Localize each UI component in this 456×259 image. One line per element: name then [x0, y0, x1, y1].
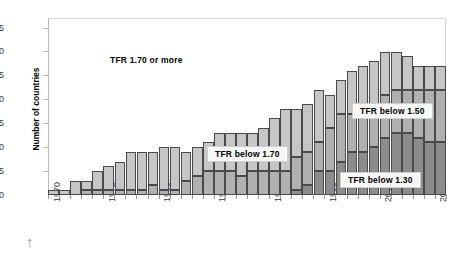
bar-segment-tfr-170-or-more [137, 152, 148, 190]
bar-segment-tfr-below-130 [302, 185, 313, 195]
bar-column [115, 18, 126, 195]
bar-segment-tfr-below-130 [325, 171, 336, 195]
bar-segment-tfr-below-130 [314, 171, 325, 195]
bar-segment-tfr-below-170 [236, 176, 247, 195]
bar-segment-tfr-below-170 [170, 190, 181, 195]
bar-segment-tfr-170-or-more [302, 104, 313, 152]
annotation-tfr-below-170: TFR below 1.70 [207, 146, 288, 162]
bar-column [81, 18, 92, 195]
bar-segment-tfr-170-or-more [424, 66, 435, 90]
bar-column [435, 18, 446, 195]
bars-layer [0, 0, 456, 259]
bar-segment-tfr-below-130 [424, 142, 435, 195]
bar-segment-tfr-170-or-more [380, 52, 391, 95]
bar-segment-tfr-below-170 [192, 176, 203, 195]
bar-column [103, 18, 114, 195]
bar-segment-tfr-170-or-more [291, 109, 302, 157]
bar-segment-tfr-170-or-more [103, 166, 114, 190]
up-arrow-icon[interactable]: ↑ [26, 234, 34, 249]
bar-column [214, 18, 225, 195]
bar-column [269, 18, 280, 195]
bar-segment-tfr-170-or-more [358, 66, 369, 104]
bar-column [336, 18, 347, 195]
bar-segment-tfr-below-170 [181, 181, 192, 195]
bar-column [314, 18, 325, 195]
annotation-tfr-170-or-more: TFR 1.70 or more [110, 55, 183, 65]
bar-column [258, 18, 269, 195]
bar-segment-tfr-170-or-more [269, 118, 280, 171]
bar-segment-tfr-below-170 [347, 114, 358, 152]
bar-column [70, 18, 81, 195]
bar-segment-tfr-below-170 [225, 171, 236, 195]
bar-segment-tfr-170-or-more [115, 162, 126, 191]
bar-column [325, 18, 336, 195]
bar-segment-tfr-170-or-more [170, 147, 181, 190]
annotation-tfr-below-150: TFR below 1.50 [352, 103, 433, 119]
chart-container: Number of countries 05101520253035 19701… [0, 0, 456, 259]
bar-column [225, 18, 236, 195]
bar-column [148, 18, 159, 195]
bar-segment-tfr-170-or-more [336, 80, 347, 113]
bar-segment-tfr-below-130 [435, 142, 446, 195]
bar-column [48, 18, 59, 195]
bar-segment-tfr-170-or-more [70, 181, 81, 195]
bar-column [159, 18, 170, 195]
bar-segment-tfr-below-170 [103, 190, 114, 195]
bar-segment-tfr-170-or-more [314, 90, 325, 143]
bar-segment-tfr-170-or-more [413, 66, 424, 90]
bar-segment-tfr-170-or-more [402, 56, 413, 89]
bar-segment-tfr-below-170 [137, 190, 148, 195]
bar-segment-tfr-170-or-more [148, 152, 159, 185]
bar-segment-tfr-170-or-more [325, 95, 336, 128]
bar-column [137, 18, 148, 195]
bar-segment-tfr-170-or-more [192, 147, 203, 176]
bar-segment-tfr-170-or-more [181, 152, 192, 181]
bar-segment-tfr-below-170 [203, 171, 214, 195]
bar-segment-tfr-below-170 [291, 157, 302, 190]
bar-segment-tfr-below-170 [336, 114, 347, 162]
bar-segment-tfr-below-170 [148, 185, 159, 195]
bar-segment-tfr-170-or-more [126, 152, 137, 190]
bar-segment-tfr-below-170 [92, 190, 103, 195]
bar-column [247, 18, 258, 195]
bar-segment-tfr-below-170 [325, 128, 336, 171]
bar-segment-tfr-below-170 [214, 171, 225, 195]
bar-column [291, 18, 302, 195]
bar-segment-tfr-below-170 [302, 152, 313, 185]
bar-segment-tfr-below-170 [314, 142, 325, 171]
bar-segment-tfr-below-170 [115, 190, 126, 195]
bar-column [192, 18, 203, 195]
bar-segment-tfr-below-170 [269, 171, 280, 195]
bar-segment-tfr-below-170 [159, 190, 170, 195]
bar-segment-tfr-below-170 [435, 90, 446, 143]
bar-segment-tfr-below-170 [81, 190, 92, 195]
bar-segment-tfr-170-or-more [435, 66, 446, 90]
bar-column [126, 18, 137, 195]
bar-segment-tfr-170-or-more [81, 181, 92, 191]
bar-segment-tfr-170-or-more [48, 190, 59, 195]
bar-segment-tfr-below-170 [280, 171, 291, 195]
bar-column [280, 18, 291, 195]
bar-segment-tfr-below-170 [258, 171, 269, 195]
bar-segment-tfr-170-or-more [391, 52, 402, 90]
bar-segment-tfr-below-130 [291, 190, 302, 195]
bar-segment-tfr-170-or-more [159, 147, 170, 190]
annotation-tfr-below-130: TFR below 1.30 [340, 172, 421, 188]
bar-column [59, 18, 70, 195]
bar-segment-tfr-170-or-more [59, 190, 70, 195]
bar-segment-tfr-below-170 [126, 190, 137, 195]
bar-column [236, 18, 247, 195]
bar-column [170, 18, 181, 195]
bar-column [203, 18, 214, 195]
bar-segment-tfr-170-or-more [369, 61, 380, 104]
bar-segment-tfr-170-or-more [92, 171, 103, 190]
bar-column [302, 18, 313, 195]
bar-column [181, 18, 192, 195]
bar-segment-tfr-below-170 [247, 171, 258, 195]
bar-column [92, 18, 103, 195]
